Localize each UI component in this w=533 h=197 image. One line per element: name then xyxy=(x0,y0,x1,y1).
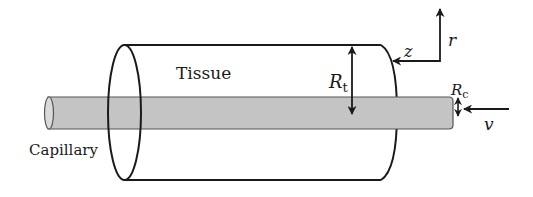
capillary-radius-label: Rc xyxy=(450,81,468,101)
capillary-radius-symbol: R xyxy=(450,81,462,99)
krogh-cylinder-diagram: Tissue Capillary Rt z r Rc v xyxy=(0,0,533,197)
capillary-label: Capillary xyxy=(29,141,99,159)
capillary-open-end xyxy=(45,97,54,129)
velocity-label: v xyxy=(484,114,494,134)
tissue-label: Tissue xyxy=(176,63,231,83)
r-axis-label: r xyxy=(448,30,457,50)
z-axis-label: z xyxy=(403,42,413,61)
coordinate-axes xyxy=(393,9,440,62)
tissue-radius-subscript: t xyxy=(343,80,349,95)
tissue-radius-symbol: R xyxy=(328,71,343,92)
tissue-radius-label: Rt xyxy=(328,71,349,95)
capillary-radius-subscript: c xyxy=(462,88,468,101)
capillary-tube xyxy=(45,97,454,129)
